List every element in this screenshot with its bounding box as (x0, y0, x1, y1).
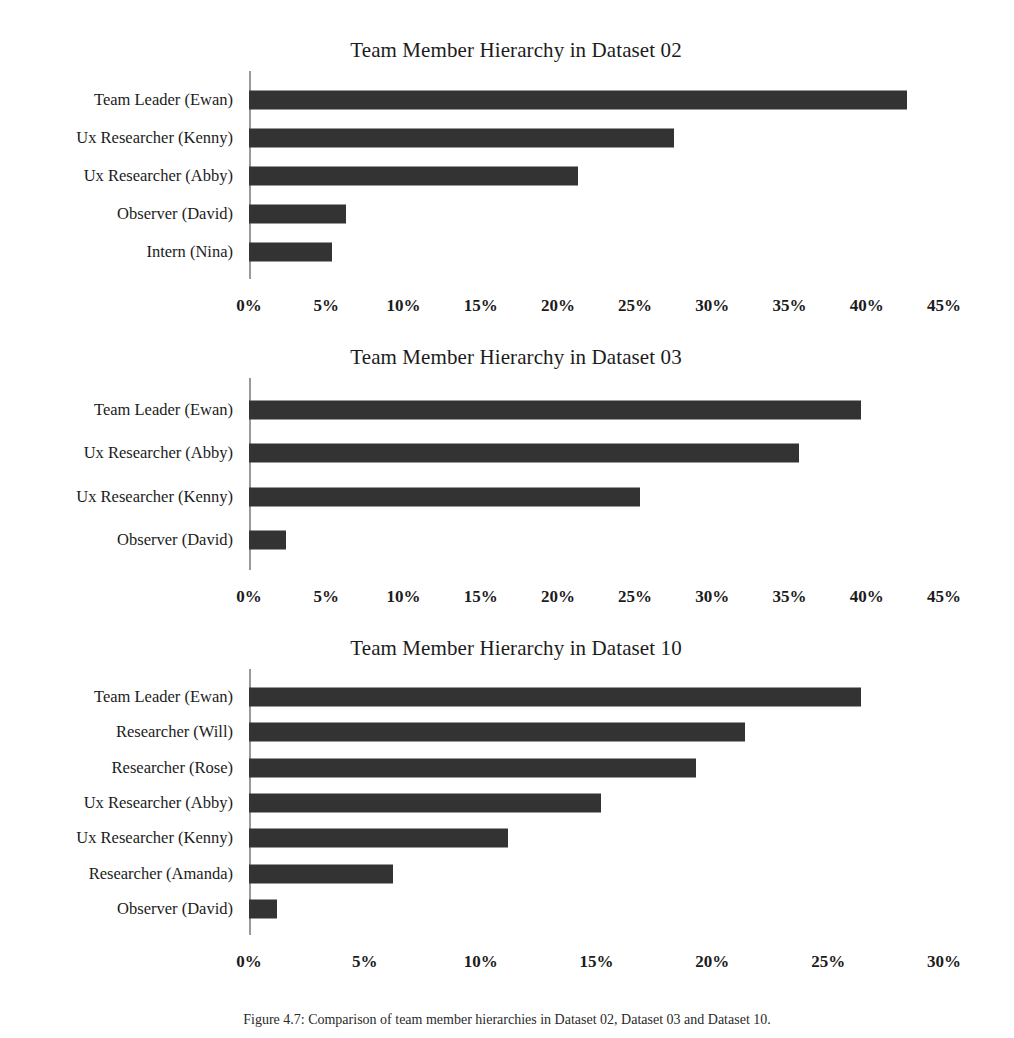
x-axis-tick-label: 10% (386, 296, 420, 316)
bar (249, 794, 601, 813)
bar (249, 91, 907, 110)
x-axis-tick-label: 30% (927, 952, 961, 972)
category-label: Researcher (Amanda) (89, 866, 233, 883)
x-axis-ticks: 0%5%10%15%20%25%30%35%40%45% (0, 296, 1014, 318)
x-axis-tick-label: 25% (811, 952, 845, 972)
x-axis-tick-label: 10% (386, 587, 420, 607)
bars-container (249, 71, 1014, 279)
bar (249, 900, 277, 919)
bar (249, 167, 578, 186)
category-label: Team Leader (Ewan) (94, 402, 233, 419)
x-axis-tick-label: 0% (236, 587, 262, 607)
chart-block-dataset-02: Team Member Hierarchy in Dataset 02 Team… (0, 38, 1014, 279)
category-label: Ux Researcher (Kenny) (76, 830, 233, 847)
x-axis-tick-label: 15% (580, 952, 614, 972)
x-axis-tick-label: 5% (313, 587, 339, 607)
x-axis-tick-label: 15% (464, 296, 498, 316)
category-axis-labels: Team Leader (Ewan)Ux Researcher (Abby)Ux… (0, 378, 243, 570)
bar (249, 444, 799, 463)
x-axis-tick-label: 20% (541, 296, 575, 316)
x-axis-tick-label: 30% (695, 296, 729, 316)
bar (249, 487, 640, 506)
bar (249, 531, 286, 550)
x-axis-tick-label: 25% (618, 587, 652, 607)
bar (249, 129, 674, 148)
category-label: Ux Researcher (Abby) (84, 795, 233, 812)
category-label: Ux Researcher (Kenny) (76, 489, 233, 506)
category-label: Researcher (Rose) (112, 759, 233, 776)
x-axis-ticks: 0%5%10%15%20%25%30%35%40%45% (0, 587, 1014, 609)
category-label: Team Leader (Ewan) (94, 688, 233, 705)
category-label: Observer (David) (117, 206, 233, 223)
bar (249, 758, 696, 777)
bars-container (249, 378, 1014, 570)
x-axis-tick-label: 40% (850, 587, 884, 607)
category-label: Intern (Nina) (146, 244, 233, 261)
chart-block-dataset-10: Team Member Hierarchy in Dataset 10 Team… (0, 636, 1014, 935)
x-axis-tick-label: 15% (464, 587, 498, 607)
x-axis-tick-label: 35% (773, 296, 807, 316)
category-label: Ux Researcher (Abby) (84, 168, 233, 185)
figure-caption: Figure 4.7: Comparison of team member hi… (0, 1012, 1014, 1028)
x-axis-tick-label: 25% (618, 296, 652, 316)
category-label: Observer (David) (117, 532, 233, 549)
x-axis-tick-label: 10% (464, 952, 498, 972)
figure-page: Team Member Hierarchy in Dataset 02 Team… (0, 0, 1014, 1038)
bar (249, 723, 745, 742)
x-axis-tick-label: 45% (927, 587, 961, 607)
x-axis-tick-label: 35% (773, 587, 807, 607)
bar (249, 864, 393, 883)
plot-area-dataset-02: Team Leader (Ewan)Ux Researcher (Kenny)U… (0, 71, 1014, 279)
x-axis-tick-label: 30% (695, 587, 729, 607)
bar (249, 400, 861, 419)
chart-block-dataset-03: Team Member Hierarchy in Dataset 03 Team… (0, 345, 1014, 570)
x-axis-tick-label: 45% (927, 296, 961, 316)
chart-title: Team Member Hierarchy in Dataset 10 (0, 636, 1014, 661)
category-axis-labels: Team Leader (Ewan)Ux Researcher (Kenny)U… (0, 71, 243, 279)
bar (249, 687, 861, 706)
x-axis-tick-label: 5% (313, 296, 339, 316)
category-axis-labels: Team Leader (Ewan)Researcher (Will)Resea… (0, 669, 243, 935)
x-axis-tick-label: 20% (541, 587, 575, 607)
chart-title: Team Member Hierarchy in Dataset 02 (0, 38, 1014, 63)
bar (249, 205, 346, 224)
plot-area-dataset-03: Team Leader (Ewan)Ux Researcher (Abby)Ux… (0, 378, 1014, 570)
x-axis-tick-label: 20% (695, 952, 729, 972)
plot-area-dataset-10: Team Leader (Ewan)Researcher (Will)Resea… (0, 669, 1014, 935)
x-axis-tick-label: 0% (236, 952, 262, 972)
bar (249, 243, 332, 262)
category-label: Ux Researcher (Abby) (84, 445, 233, 462)
category-label: Ux Researcher (Kenny) (76, 130, 233, 147)
category-label: Team Leader (Ewan) (94, 92, 233, 109)
chart-title: Team Member Hierarchy in Dataset 03 (0, 345, 1014, 370)
x-axis-ticks: 0%5%10%15%20%25%30% (0, 952, 1014, 974)
x-axis-tick-label: 40% (850, 296, 884, 316)
x-axis-tick-label: 0% (236, 296, 262, 316)
x-axis-tick-label: 5% (352, 952, 378, 972)
bars-container (249, 669, 1014, 935)
category-label: Observer (David) (117, 901, 233, 918)
category-label: Researcher (Will) (116, 724, 233, 741)
bar (249, 829, 508, 848)
